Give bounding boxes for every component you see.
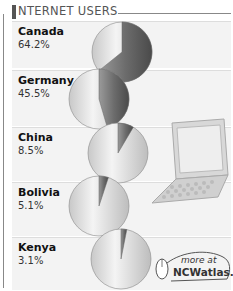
pie-germany (68, 68, 130, 130)
left-rule (3, 14, 4, 288)
title-rule (118, 13, 231, 14)
more-at-link[interactable]: more at NCWatlas.ca (153, 249, 231, 287)
chart-title: NTERNET USERS (18, 4, 118, 18)
pct-label: 64.2% (18, 39, 50, 50)
site-link[interactable]: NCWatlas.ca (173, 266, 233, 278)
country-label: Canada (18, 25, 64, 38)
pct-label: 3.1% (18, 255, 43, 266)
pct-label: 45.5% (18, 88, 50, 99)
country-label: Bolivia (18, 186, 60, 199)
country-label: Kenya (18, 241, 56, 254)
title-accent-bar (12, 5, 16, 19)
more-at-text: more at (181, 255, 216, 265)
pct-label: 5.1% (18, 200, 43, 211)
pie-kenya (90, 228, 152, 290)
country-label: China (18, 131, 53, 144)
pct-label: 8.5% (18, 145, 43, 156)
country-label: Germany (18, 74, 74, 87)
laptop-icon (142, 115, 232, 210)
